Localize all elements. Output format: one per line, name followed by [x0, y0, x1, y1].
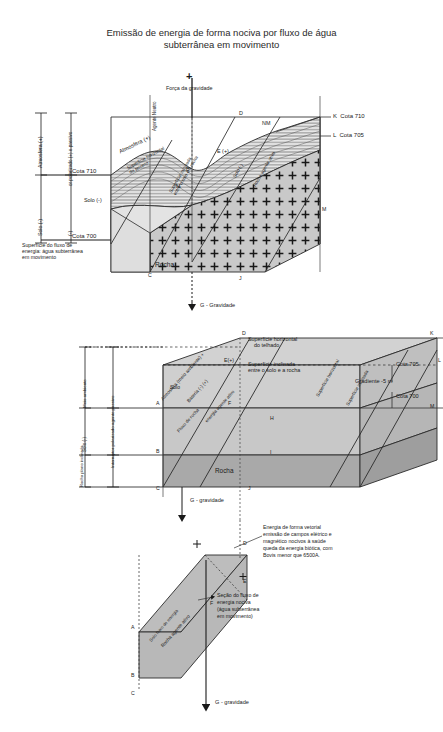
fig2-axis-meio-ambiente-label: Meio ambiente: [83, 379, 88, 408]
fig3-vertex-E: E: [243, 579, 246, 585]
fig2-gravidade-label: G - gravidade: [190, 497, 224, 503]
fig2-left-axes: [79, 347, 163, 487]
fig1-cota710-axis-label: Cota 710: [72, 168, 96, 175]
fig1-nm-label: NM: [262, 120, 270, 126]
fig2-cota705-label: Cota 705: [396, 361, 419, 367]
fig2-vertex-F: F: [228, 401, 231, 407]
fig2-vertex-I: I: [270, 450, 271, 456]
fig1-e-label: E (+): [217, 148, 229, 154]
fig2-e-label: E(+): [224, 358, 234, 364]
fig1-cota710-label: K Cota 710: [333, 113, 365, 120]
fig1-gravity-force-label: Força da gravidade: [166, 85, 212, 91]
fig2-vertex-B: B: [156, 449, 159, 455]
fig1-cota705-label: L Cota 705: [333, 132, 364, 139]
fig2-axis-rocha-label: Rocha plano inclinado: [80, 446, 85, 487]
fig1-axis-atmosfera-label: Atmosfera (+): [38, 136, 44, 168]
fig3-vertex-B: B: [131, 673, 134, 679]
fig2-vertex-L: L: [438, 358, 441, 364]
fig2-solo-label: Solo: [170, 385, 180, 391]
fig2-superficie-inclinada-label: Superfície inclinadaentre o solo e a roc…: [248, 361, 300, 373]
fig1-vertex-M: M: [176, 184, 180, 190]
diagram-artwork: [0, 0, 443, 732]
fig1-plus-symbol: +: [186, 70, 192, 82]
fig3-gravidade-label: G - gravidade: [215, 699, 249, 705]
fig3-vertex-C: C: [131, 691, 135, 697]
fig2-axis-interruptor-label: Interruptor polarizado agente passivo: [111, 396, 116, 469]
fig2-vertex-H: H: [270, 416, 274, 422]
fig1-cota-ticks: [320, 117, 331, 136]
fig2-vertex-J: J: [248, 486, 251, 492]
fig2-vertex-A: A: [156, 401, 159, 407]
fig1-gravidade-label: G - Gravidade: [200, 302, 235, 308]
fig3-vertex-A: A: [131, 625, 134, 631]
fig1-vertex-D: D: [239, 110, 243, 116]
fig2-rocha-label: Rocha: [215, 467, 233, 474]
fig1-solo-label: Solo (-): [84, 197, 102, 203]
fig1-vertex-Mright: M: [322, 207, 326, 213]
fig1-axis-solo-label: Solo (-): [38, 219, 44, 236]
fig2-vertex-C: C: [156, 486, 160, 492]
fig2-superficie-telhado-label: Superfície horizontal do telhado: [248, 336, 297, 348]
fig3-callout-secao: Seção do fluxo deenergia nociva(água sub…: [217, 592, 259, 620]
fig1-flow-note: Superfície do fluxo deenergia: água subt…: [22, 243, 127, 260]
fig1-axis-polarizado-label: or polarizado (+) e passivo: [68, 132, 73, 186]
fig3-callout-energia: Energia de forma vetorialemissão de camp…: [263, 524, 333, 559]
fig3-vertex-F: F: [210, 601, 213, 607]
fig3-vertex-D: D: [243, 541, 247, 547]
fig2-cota700-label: Cota 700: [396, 393, 419, 399]
fig1-agente-neutro-label: Agente Neutro: [152, 101, 157, 131]
fig2-vertex-M: M: [430, 404, 434, 410]
fig1-vertex-C: C: [148, 273, 152, 279]
diagram-page: Emissão de energia de forma nociva por f…: [0, 0, 443, 732]
fig1-cota700-axis-label: Cota 700: [72, 233, 96, 240]
fig1-vertex-B: B: [186, 167, 189, 173]
fig1-vertex-J: J: [239, 276, 242, 282]
fig2-vertex-D: D: [242, 331, 246, 337]
fig2-vertex-K: K: [430, 331, 433, 337]
fig1-rocha-label: Rocha: [155, 261, 174, 268]
fig2-rock-front: [163, 455, 360, 487]
figure1-group: [35, 78, 331, 307]
